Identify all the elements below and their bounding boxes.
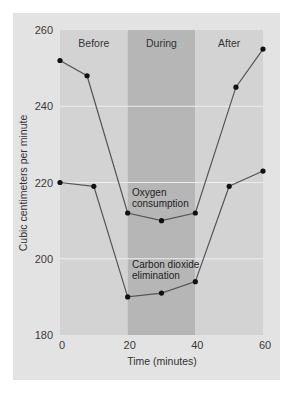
data-point (57, 180, 62, 185)
y-axis-ticks: 180200220240260 (35, 24, 53, 341)
x-tick-label: 60 (259, 339, 271, 351)
data-point (159, 218, 164, 223)
data-point (260, 168, 265, 173)
data-point (233, 85, 238, 90)
data-point (125, 294, 130, 299)
x-tick-label: 0 (59, 339, 65, 351)
data-point (91, 184, 96, 189)
x-tick-label: 20 (124, 339, 136, 351)
y-tick-label: 220 (35, 177, 53, 189)
data-point (125, 210, 130, 215)
phase-label-during: During (146, 37, 177, 49)
y-tick-label: 180 (35, 329, 53, 341)
line-chart: BeforeDuringAfter 180200220240260 020406… (0, 0, 288, 396)
data-point (193, 210, 198, 215)
y-tick-label: 240 (35, 100, 53, 112)
y-tick-label: 260 (35, 24, 53, 36)
x-axis-label: Time (minutes) (127, 355, 197, 367)
data-point (227, 184, 232, 189)
data-point (159, 290, 164, 295)
x-axis-ticks: 0204060 (59, 339, 271, 351)
data-point (57, 58, 62, 63)
data-point (260, 46, 265, 51)
y-axis-label: Cubic centimeters per minute (17, 115, 29, 252)
phase-label-after: After (218, 37, 241, 49)
y-tick-label: 200 (35, 253, 53, 265)
phase-label-before: Before (78, 37, 109, 49)
data-point (84, 73, 89, 78)
data-point (193, 279, 198, 284)
x-tick-label: 40 (191, 339, 203, 351)
